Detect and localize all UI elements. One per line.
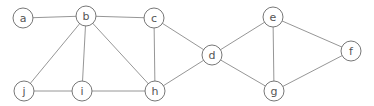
edges xyxy=(23,16,351,91)
node-i: i xyxy=(72,81,92,101)
edge-b-j xyxy=(24,16,86,91)
node-h: h xyxy=(145,81,165,101)
node-d: d xyxy=(202,45,222,65)
node-b: b xyxy=(76,6,96,26)
nodes: abcdefghij xyxy=(13,6,361,101)
edge-f-g xyxy=(274,51,351,91)
node-label: i xyxy=(80,85,83,98)
edge-c-h xyxy=(154,18,155,91)
edge-e-g xyxy=(273,17,274,91)
node-label: c xyxy=(151,12,157,25)
node-g: g xyxy=(264,81,284,101)
edge-b-i xyxy=(82,16,86,91)
node-e: e xyxy=(263,7,283,27)
edge-d-e xyxy=(212,17,273,55)
node-label: e xyxy=(270,11,277,24)
node-f: f xyxy=(341,41,361,61)
node-j: j xyxy=(14,81,34,101)
node-label: g xyxy=(271,85,278,98)
edge-b-h xyxy=(86,16,155,91)
node-label: j xyxy=(21,85,25,98)
node-a: a xyxy=(13,8,33,28)
node-c: c xyxy=(144,8,164,28)
graph-diagram: abcdefghij xyxy=(0,0,374,106)
edge-d-g xyxy=(212,55,274,91)
edge-e-f xyxy=(273,17,351,51)
node-label: h xyxy=(152,85,159,98)
node-label: a xyxy=(20,12,27,25)
node-label: b xyxy=(83,10,90,23)
node-label: d xyxy=(209,49,216,62)
